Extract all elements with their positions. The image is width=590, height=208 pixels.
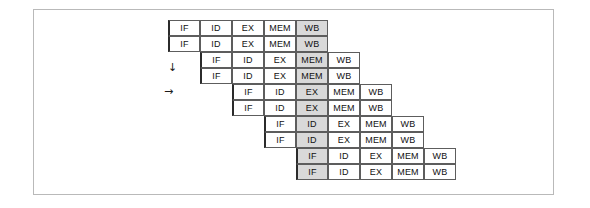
pipeline-cell-wb: WB: [328, 68, 360, 84]
pipeline-cell-ex: EX: [232, 20, 264, 36]
pipeline-cell-wb: WB: [424, 148, 456, 164]
pipeline-cell-id: ID: [328, 164, 360, 180]
pipeline-cell-mem: MEM: [392, 148, 424, 164]
pipeline-cell-ex: EX: [328, 116, 360, 132]
pipeline-cell-ex: EX: [328, 132, 360, 148]
pipeline-diagram: IFIDEXMEMWBIFIDEXMEMWBIFIDEXMEMWBIFIDEXM…: [0, 0, 590, 208]
pipeline-cell-id: ID: [264, 84, 296, 100]
pipeline-cell-id: ID: [328, 148, 360, 164]
pipeline-cell-ex: EX: [232, 36, 264, 52]
pipeline-cell-if: IF: [264, 132, 296, 148]
pipeline-cell-if: IF: [200, 52, 232, 68]
pipeline-cell-ex: EX: [296, 100, 328, 116]
pipeline-cell-mem: MEM: [264, 20, 296, 36]
pipeline-cell-id: ID: [264, 100, 296, 116]
pipeline-cell-ex: EX: [360, 164, 392, 180]
pipeline-cell-ex: EX: [264, 52, 296, 68]
pipeline-cell-mem: MEM: [360, 132, 392, 148]
pipeline-cell-mem: MEM: [264, 36, 296, 52]
pipeline-cell-id: ID: [296, 132, 328, 148]
pipeline-cell-wb: WB: [296, 36, 328, 52]
pipeline-cell-if: IF: [232, 84, 264, 100]
pipeline-cell-id: ID: [200, 20, 232, 36]
pipeline-cell-wb: WB: [296, 20, 328, 36]
pipeline-cell-id: ID: [296, 116, 328, 132]
pipeline-cell-ex: EX: [264, 68, 296, 84]
right-arrow-icon: →: [164, 86, 173, 97]
pipeline-cell-if: IF: [232, 100, 264, 116]
pipeline-cell-mem: MEM: [328, 84, 360, 100]
pipeline-cell-ex: EX: [360, 148, 392, 164]
pipeline-cell-wb: WB: [392, 132, 424, 148]
pipeline-cell-if: IF: [168, 20, 200, 36]
pipeline-cell-ex: EX: [296, 84, 328, 100]
pipeline-cell-if: IF: [296, 148, 328, 164]
pipeline-cell-mem: MEM: [296, 52, 328, 68]
pipeline-cell-mem: MEM: [296, 68, 328, 84]
pipeline-cell-wb: WB: [392, 116, 424, 132]
pipeline-cell-wb: WB: [360, 84, 392, 100]
pipeline-cell-if: IF: [296, 164, 328, 180]
pipeline-cell-mem: MEM: [392, 164, 424, 180]
down-arrow-icon: ↓: [168, 62, 177, 73]
pipeline-cell-if: IF: [200, 68, 232, 84]
pipeline-cell-mem: MEM: [360, 116, 392, 132]
pipeline-cell-wb: WB: [328, 52, 360, 68]
pipeline-cell-wb: WB: [424, 164, 456, 180]
pipeline-cell-id: ID: [232, 68, 264, 84]
pipeline-cell-mem: MEM: [328, 100, 360, 116]
pipeline-cell-id: ID: [232, 52, 264, 68]
pipeline-cell-id: ID: [200, 36, 232, 52]
pipeline-cell-if: IF: [168, 36, 200, 52]
pipeline-cell-wb: WB: [360, 100, 392, 116]
pipeline-cell-if: IF: [264, 116, 296, 132]
